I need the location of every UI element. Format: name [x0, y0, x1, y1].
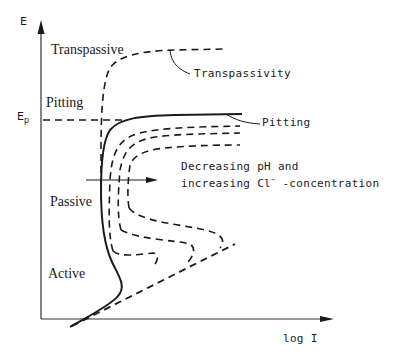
dashed-curve-1-loop — [113, 251, 157, 268]
dashed-curve-3-loop — [129, 208, 223, 248]
y-axis-arrow-icon — [38, 20, 45, 34]
trend-arrow-icon — [146, 177, 158, 183]
region-passive: Passive — [50, 194, 92, 210]
trend-line2-b: -concentration — [276, 177, 380, 190]
ep-marker-main: E — [17, 110, 24, 123]
annotation-pitting: Pitting — [262, 116, 310, 129]
x-axis-arrow-icon — [320, 316, 334, 322]
annotation-transpassivity: Transpassivity — [194, 67, 291, 80]
ep-marker-sub: p — [24, 116, 29, 125]
y-axis-label: E — [20, 15, 27, 28]
x-axis-label: log I — [283, 332, 318, 345]
transpassivity-leader — [170, 50, 190, 74]
annotation-trend-line2: increasing Cl− -concentration — [181, 176, 379, 190]
region-transpassive: Transpassive — [51, 42, 124, 58]
dashed-active-baseline — [72, 244, 235, 326]
region-active: Active — [48, 266, 85, 282]
trend-line2-a: increasing Cl — [181, 177, 271, 190]
ep-marker-label: Ep — [17, 110, 29, 125]
region-pitting: Pitting — [46, 95, 83, 111]
annotation-trend-line1: Decreasing pH and — [181, 160, 299, 173]
polarization-diagram: E Ep log I Transpassive Pitting Passive … — [0, 0, 399, 360]
dashed-curve-2-loop — [121, 230, 194, 262]
pitting-leader — [226, 114, 260, 124]
